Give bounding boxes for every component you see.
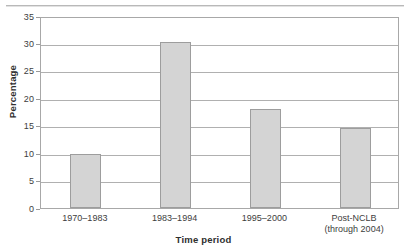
gridline	[41, 45, 398, 46]
bar[interactable]	[250, 109, 281, 208]
x-axis-tick-label-line1: 1983–1994	[152, 213, 197, 223]
x-axis-tick-label-line1: Post-NCLB	[332, 213, 377, 223]
gridline	[41, 72, 398, 73]
y-axis-tick-label: 5	[4, 177, 34, 186]
x-axis-title: Time period	[0, 234, 407, 245]
x-axis-tick-label-line1: 1970–1983	[62, 213, 107, 223]
y-axis-tick-label: 10	[4, 150, 34, 159]
bar[interactable]	[160, 42, 191, 208]
gridline	[41, 100, 398, 101]
bar[interactable]	[70, 154, 101, 208]
y-axis-tick-label: 35	[4, 13, 34, 22]
bar-chart-figure: 05101520253035 Percentage Time period 19…	[0, 0, 407, 251]
y-axis-title: Percentage	[7, 47, 18, 137]
x-axis-tick-label-line1: 1995–2000	[242, 213, 287, 223]
x-axis-tick-label: Post-NCLB(through 2004)	[299, 213, 407, 235]
x-axis-tick-label-line2: (through 2004)	[299, 224, 407, 235]
plot-area	[40, 17, 399, 209]
bar[interactable]	[340, 128, 371, 208]
